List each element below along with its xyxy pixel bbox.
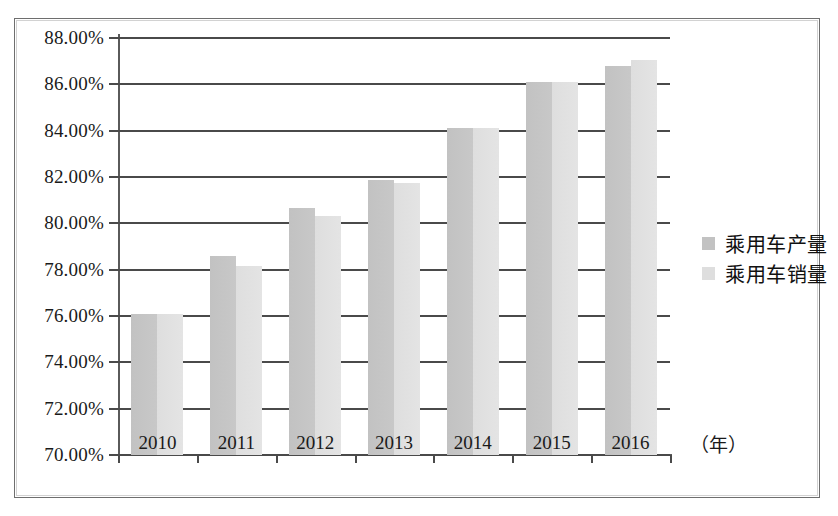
sales-swatch-icon xyxy=(702,267,715,280)
x-axis-tick xyxy=(197,455,199,463)
y-axis-tick xyxy=(109,269,118,271)
plot-area: 70.00%72.00%74.00%76.00%78.00%80.00%82.0… xyxy=(118,38,670,455)
legend-item-production: 乘用车产量 xyxy=(702,228,822,258)
y-axis-tick-label: 78.00% xyxy=(44,259,104,281)
x-axis-label-2014: 2014 xyxy=(454,432,492,454)
legend-label-sales: 乘用车销量 xyxy=(725,259,828,288)
bar-2014-sales xyxy=(473,128,499,455)
y-axis-tick xyxy=(109,408,118,410)
y-axis-tick xyxy=(109,176,118,178)
gridline xyxy=(118,83,670,85)
x-axis-label-2012: 2012 xyxy=(296,432,334,454)
y-gridline-row: 82.00% xyxy=(118,176,670,178)
y-axis-tick xyxy=(109,222,118,224)
gridline xyxy=(118,176,670,178)
bar-2015-sales xyxy=(552,82,578,455)
bar-2013-production xyxy=(368,180,394,455)
bar-2011-production xyxy=(210,256,236,455)
gridline xyxy=(118,37,670,39)
y-axis-tick-label: 72.00% xyxy=(44,398,104,420)
x-axis-tick xyxy=(670,455,672,463)
x-axis-tick xyxy=(512,455,514,463)
bar-2014-production xyxy=(447,128,473,455)
y-axis-tick-label: 70.00% xyxy=(44,444,104,466)
x-axis-tick xyxy=(276,455,278,463)
y-axis-tick-label: 84.00% xyxy=(44,120,104,142)
y-axis-tick xyxy=(109,83,118,85)
legend-item-sales: 乘用车销量 xyxy=(702,258,822,288)
bar-2016-production xyxy=(605,66,631,455)
legend-label-production: 乘用车产量 xyxy=(725,229,828,258)
y-gridline-row: 88.00% xyxy=(118,37,670,39)
x-axis-label-2013: 2013 xyxy=(375,432,413,454)
y-axis-tick-label: 86.00% xyxy=(44,73,104,95)
x-axis-unit-label: （年） xyxy=(690,430,747,457)
chart-figure: 70.00%72.00%74.00%76.00%78.00%80.00%82.0… xyxy=(0,0,838,516)
x-axis-label-2011: 2011 xyxy=(218,432,255,454)
y-axis-tick-label: 82.00% xyxy=(44,166,104,188)
bar-2013-sales xyxy=(394,183,420,455)
production-swatch-icon xyxy=(702,237,715,250)
y-axis-tick-label: 76.00% xyxy=(44,305,104,327)
x-axis-label-2010: 2010 xyxy=(138,432,176,454)
y-axis-tick xyxy=(109,361,118,363)
y-gridline-row: 84.00% xyxy=(118,130,670,132)
x-axis-tick xyxy=(355,455,357,463)
bar-2012-sales xyxy=(315,216,341,455)
gridline xyxy=(118,130,670,132)
y-axis-tick-label: 74.00% xyxy=(44,351,104,373)
y-axis-tick xyxy=(109,130,118,132)
y-axis-tick-label: 88.00% xyxy=(44,27,104,49)
x-axis-label-2016: 2016 xyxy=(612,432,650,454)
bar-2016-sales xyxy=(631,60,657,455)
y-axis-tick-label: 80.00% xyxy=(44,212,104,234)
y-axis-tick xyxy=(109,37,118,39)
y-axis-tick xyxy=(109,454,118,456)
bar-2015-production xyxy=(526,82,552,455)
bar-2012-production xyxy=(289,208,315,455)
x-axis-tick xyxy=(433,455,435,463)
x-axis-tick xyxy=(591,455,593,463)
x-axis-tick xyxy=(118,455,120,463)
x-axis-label-2015: 2015 xyxy=(533,432,571,454)
chart-legend: 乘用车产量 乘用车销量 xyxy=(702,228,822,288)
y-gridline-row: 86.00% xyxy=(118,83,670,85)
bar-2011-sales xyxy=(236,266,262,455)
y-axis-tick xyxy=(109,315,118,317)
